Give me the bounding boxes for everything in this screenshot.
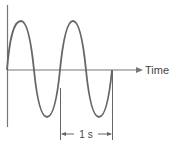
sine-wave bbox=[7, 21, 112, 117]
arrow-left-icon bbox=[61, 132, 66, 136]
time-axis-arrow-icon bbox=[136, 67, 143, 73]
sine-wave-diagram: Time 1 s bbox=[0, 0, 177, 147]
time-axis-label: Time bbox=[145, 64, 169, 76]
period-label: 1 s bbox=[79, 129, 92, 140]
arrow-right-icon bbox=[107, 132, 112, 136]
